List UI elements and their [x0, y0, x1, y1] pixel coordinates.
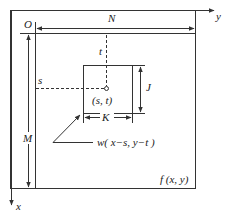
width-label: N: [107, 12, 116, 24]
filter-diagram: y x O N M t s (s, t) J K w( x−s, y−t ) f…: [0, 0, 233, 213]
center-label: (s, t): [92, 94, 113, 107]
origin-label: O: [24, 18, 32, 30]
mask-function-label: w( x−s, y−t ): [97, 136, 155, 149]
center-point: [105, 87, 109, 91]
y-axis-label: y: [215, 10, 221, 22]
height-label: M: [22, 132, 33, 144]
mask-width-label: K: [101, 111, 110, 123]
x-axis-label: x: [15, 200, 21, 212]
t-label: t: [99, 45, 103, 57]
image-function-label: f (x, y): [160, 173, 189, 186]
mask-pointer-line: [53, 115, 93, 143]
s-label: s: [38, 74, 42, 86]
mask-height-label: J: [146, 81, 152, 93]
